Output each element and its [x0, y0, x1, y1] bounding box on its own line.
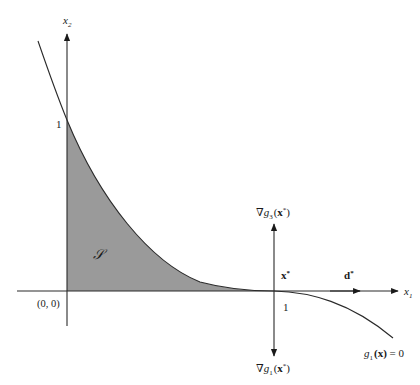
gradient-g3-label: ∇g3(x*) [256, 206, 290, 221]
x2-axis-label: x2 [62, 14, 72, 29]
gradient-g1-label: ∇g1(x*) [256, 362, 290, 377]
x2-tick-label: 1 [56, 118, 62, 130]
x1-tick-label: 1 [283, 301, 289, 313]
feasible-region-diagram: x2 x1 1 (0, 0) 1 𝒮 x* d* ∇g3(x*) ∇g1(x*)… [0, 0, 420, 385]
direction-label: d* [344, 269, 354, 281]
constraint-g1-label: g1(x) = 0 [364, 347, 405, 362]
x1-axis-label: x1 [403, 285, 412, 300]
optimal-point-label: x* [281, 269, 291, 281]
constraint-curve-g1 [274, 291, 393, 338]
origin-label: (0, 0) [37, 298, 60, 310]
